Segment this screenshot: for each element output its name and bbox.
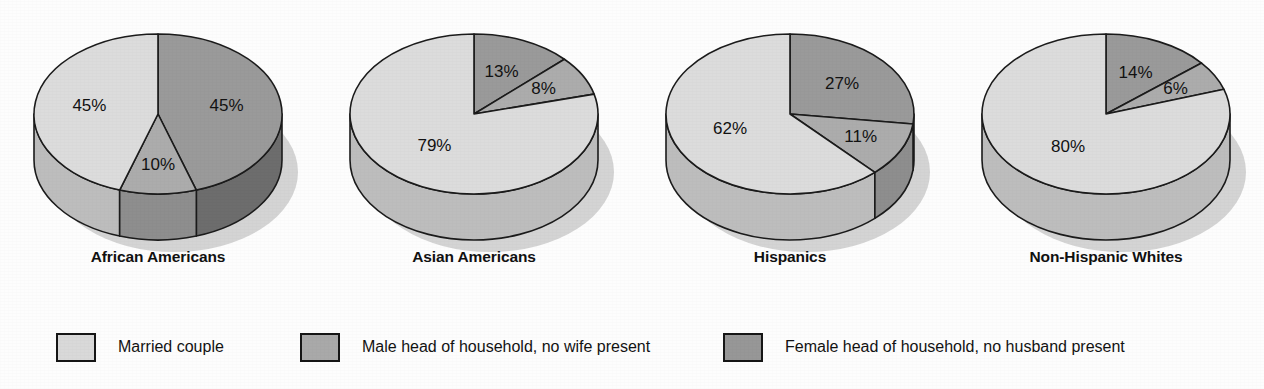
pie-slice-value-male_head: 6% [1163,79,1188,98]
pie-slice-value-married: 80% [1051,137,1085,156]
pie-chart-figure: 45%10%45%African Americans13%8%79%Asian … [0,0,1264,389]
pie-slice-value-male_head: 11% [844,127,877,146]
pie-caption-3: Hispanics [632,248,948,266]
legend-swatch-married-couple [56,333,96,362]
pie-charts-row: 45%10%45%African Americans13%8%79%Asian … [0,0,1264,300]
legend-label-married-couple: Married couple [118,338,224,356]
legend-label-male-head: Male head of household, no wife present [362,338,650,356]
pie-slice-value-married: 79% [417,136,451,155]
pie-slice-value-female_head: 14% [1119,63,1153,82]
pie-caption-4: Non-Hispanic Whites [948,248,1264,266]
pie-slice-value-male_head: 8% [531,79,556,98]
pie-chart-4: 14%6%80%Non-Hispanic Whites [948,0,1264,300]
legend-label-female-head: Female head of household, no husband pre… [785,338,1125,356]
pie-caption-1: African Americans [0,248,316,266]
pie-chart-2: 13%8%79%Asian Americans [316,0,632,300]
pie-slice-value-married: 62% [713,119,747,138]
pie-graphic-1: 45%10%45% [8,6,308,256]
legend-item-married-couple: Married couple [56,330,224,364]
pie-slice-value-female_head: 13% [485,62,519,81]
pie-graphic-4: 14%6%80% [956,6,1256,256]
pie-slice-value-female_head: 27% [825,74,859,93]
pie-chart-1: 45%10%45%African Americans [0,0,316,300]
pie-slice-value-female_head: 45% [210,96,244,115]
pie-caption-2: Asian Americans [316,248,632,266]
pie-slice-side-male_head [120,190,197,240]
chart-legend: Married couple Male head of household, n… [0,330,1264,380]
pie-chart-3: 27%11%62%Hispanics [632,0,948,300]
pie-graphic-3: 27%11%62% [640,6,940,256]
pie-slice-value-male_head: 10% [141,155,175,174]
legend-swatch-female-head [723,333,763,362]
legend-swatch-male-head [300,333,340,362]
legend-item-female-head: Female head of household, no husband pre… [723,330,1125,364]
pie-graphic-2: 13%8%79% [324,6,624,256]
pie-slice-value-married: 45% [72,96,106,115]
legend-item-male-head: Male head of household, no wife present [300,330,650,364]
